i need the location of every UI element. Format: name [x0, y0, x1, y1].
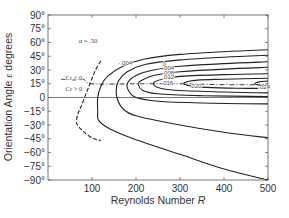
x-tick-label: 100	[84, 183, 101, 194]
y-tick-label: 15°	[30, 78, 45, 89]
x-axis-ticks: 100200300400500	[84, 15, 277, 194]
chart-annotation: .020	[190, 83, 202, 89]
chart-annotation: α = .50	[79, 37, 97, 44]
y-tick-label: 0	[39, 92, 45, 103]
y-tick-label: −75°	[24, 161, 45, 172]
y-tick-label: −15°	[24, 106, 45, 117]
y-tick-label: 75°	[30, 23, 45, 34]
y-tick-label: 60°	[30, 37, 45, 48]
y-tick-label: 45°	[30, 51, 45, 62]
y-axis-title: Orientation Angle ε degrees	[2, 33, 14, 162]
y-tick-label: −60°	[24, 147, 45, 158]
y-tick-label: 30°	[30, 65, 45, 76]
chart-annotation: Cr > 0	[66, 85, 83, 92]
x-tick-label: 200	[128, 183, 145, 194]
chart-annotation: Cr < 0	[66, 74, 83, 81]
y-tick-label: −45°	[24, 133, 45, 144]
x-axis-title: Reynolds Number R	[111, 194, 206, 206]
x-tick-label: 400	[216, 183, 233, 194]
annotations: α = .50Cr < 0Cr > 0-.0040.004.008.012.01…	[66, 37, 271, 93]
orientation-angle-chart: 100200300400500 90°75°60°45°30°15°0−15°−…	[0, 0, 289, 218]
chart-annotation: -.004	[118, 60, 132, 66]
x-tick-label: 300	[172, 183, 189, 194]
y-tick-label: 90°	[30, 10, 45, 21]
y-tick-label: −90°	[24, 175, 45, 186]
chart-annotation: .024	[258, 84, 270, 90]
contour-curve	[97, 50, 268, 180]
x-tick-label: 500	[260, 183, 277, 194]
y-tick-label: −30°	[24, 120, 45, 131]
chart-annotation: .016	[162, 80, 174, 86]
